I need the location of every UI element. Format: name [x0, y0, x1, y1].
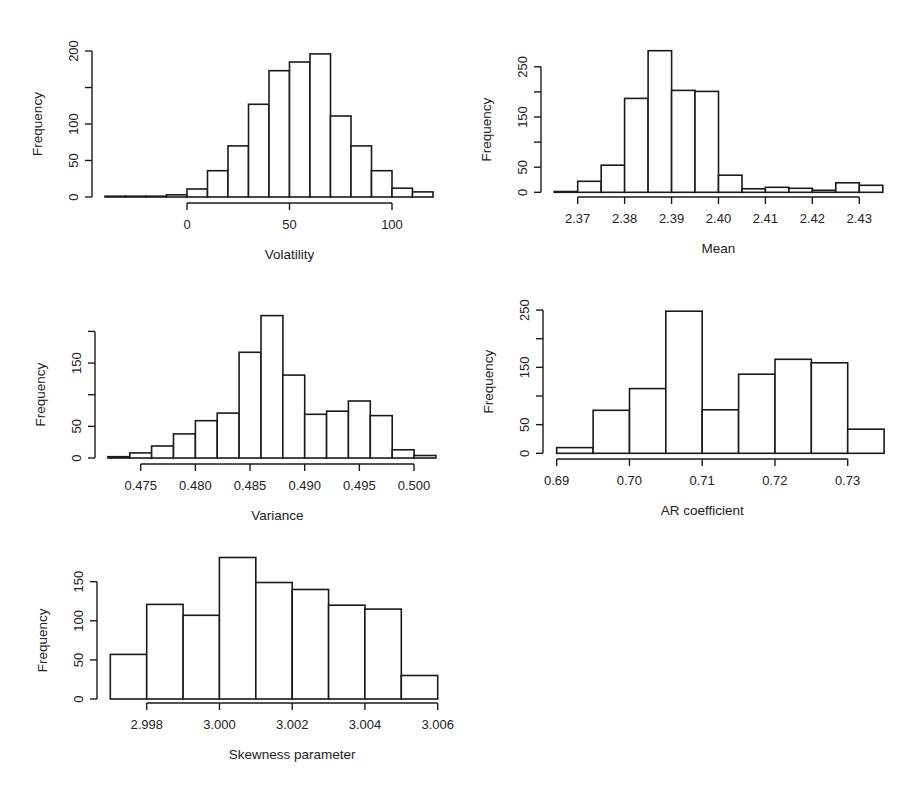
histogram-bar [630, 389, 666, 454]
y-tick-label: 0 [515, 189, 530, 196]
y-axis: 050150 [69, 331, 95, 461]
x-axis: 2.372.382.392.402.412.422.43 [565, 197, 872, 226]
x-tick-label: 3.006 [421, 717, 454, 732]
bars [557, 311, 884, 453]
histogram-bar [269, 71, 290, 197]
histogram-bar [348, 401, 370, 458]
x-tick-label: 0.70 [617, 473, 642, 488]
histogram-bar [108, 457, 130, 458]
y-tick-label: 50 [69, 419, 84, 433]
x-tick-label: 0 [183, 217, 190, 232]
y-axis-title: Frequency [479, 97, 494, 161]
x-tick-label: 0.490 [288, 478, 321, 493]
x-axis: 2.9983.0003.0023.0043.006 [130, 703, 454, 732]
y-tick-label: 50 [66, 153, 81, 167]
chart-mean: 050150250Frequency2.372.382.392.402.412.… [479, 51, 883, 256]
y-tick-label: 0 [66, 193, 81, 200]
x-tick-label: 0.485 [234, 478, 267, 493]
y-tick-label: 100 [66, 113, 81, 135]
y-axis: 050100200 [66, 40, 92, 200]
histogram-bar [392, 188, 413, 197]
histogram-bar [859, 185, 883, 192]
histogram-bar [370, 416, 392, 458]
histogram-bar [290, 62, 311, 197]
x-axis-title: AR coefficient [661, 503, 744, 518]
histogram-bar [239, 352, 261, 458]
x-tick-label: 2.41 [753, 211, 778, 226]
bars [105, 54, 433, 197]
x-tick-label: 0.475 [124, 478, 157, 493]
histogram-bar [836, 183, 860, 193]
histogram-bar [392, 450, 414, 458]
bars [554, 51, 883, 193]
histogram-grid: 050100200Frequency050100Volatility 05015… [0, 0, 911, 790]
x-tick-label: 2.42 [800, 211, 825, 226]
y-tick-label: 150 [69, 352, 84, 374]
x-axis: 050100 [183, 203, 402, 232]
histogram-bar [414, 456, 436, 459]
x-tick-label: 50 [282, 217, 296, 232]
histogram-bar [283, 375, 305, 458]
y-tick-label: 150 [515, 106, 530, 128]
x-axis-title: Volatility [265, 247, 315, 262]
histogram-bar [167, 195, 188, 197]
histogram-bar [217, 413, 239, 458]
x-axis: 0.4750.4800.4850.4900.4950.500 [124, 464, 430, 493]
y-tick-label: 50 [71, 653, 86, 667]
histogram-bar [848, 429, 884, 453]
histogram-bar [625, 98, 649, 192]
histogram-bar [256, 583, 292, 700]
histogram-bar [130, 453, 152, 458]
bars [108, 316, 436, 458]
x-tick-label: 0.480 [179, 478, 212, 493]
x-tick-label: 2.43 [847, 211, 872, 226]
histogram-bar [292, 590, 328, 700]
x-axis-title: Mean [702, 241, 736, 256]
histogram-bar [147, 604, 183, 699]
histogram-bar [219, 558, 255, 700]
histogram-bar [249, 104, 270, 197]
histogram-bar [152, 446, 174, 458]
x-axis-title: Variance [251, 508, 303, 523]
histogram-bar [593, 410, 629, 453]
y-axis-title: Frequency [481, 350, 496, 414]
histogram-bar [327, 411, 349, 458]
y-tick-label: 250 [517, 299, 532, 321]
y-tick-label: 0 [517, 450, 532, 457]
x-tick-label: 0.71 [690, 473, 715, 488]
x-tick-label: 3.004 [349, 717, 382, 732]
histogram-bar [765, 187, 789, 192]
histogram-bar [775, 359, 811, 453]
histogram-bar [195, 421, 217, 458]
histogram-bar [329, 605, 365, 699]
x-tick-label: 0.69 [544, 473, 569, 488]
histogram-bar [672, 90, 696, 192]
histogram-bar [401, 676, 437, 700]
x-tick-label: 0.73 [835, 473, 860, 488]
histogram-figure-panel: 050100200Frequency050100Volatility 05015… [0, 0, 911, 790]
x-tick-label: 2.998 [130, 717, 163, 732]
bars [110, 558, 437, 700]
histogram-bar [261, 316, 283, 458]
y-tick-label: 100 [71, 610, 86, 632]
x-tick-label: 3.000 [203, 717, 236, 732]
histogram-bar [742, 189, 766, 193]
y-tick-label: 200 [66, 40, 81, 62]
histogram-bar [578, 181, 602, 192]
histogram-bar [310, 54, 331, 197]
histogram-bar [648, 51, 672, 193]
y-tick-label: 0 [71, 695, 86, 702]
chart-volatility: 050100200Frequency050100Volatility [30, 40, 433, 262]
y-tick-label: 150 [71, 571, 86, 593]
histogram-bar [351, 146, 372, 197]
x-tick-label: 2.40 [706, 211, 731, 226]
y-axis: 050150250 [517, 299, 543, 457]
histogram-bar [557, 448, 593, 454]
histogram-bar [789, 188, 813, 192]
x-tick-label: 2.39 [659, 211, 684, 226]
y-tick-label: 0 [69, 454, 84, 461]
chart-ar-coefficient: 050150250Frequency0.690.700.710.720.73AR… [481, 299, 884, 518]
x-tick-label: 2.38 [612, 211, 637, 226]
histogram-bar [372, 171, 393, 197]
y-axis: 050150250 [515, 56, 541, 196]
